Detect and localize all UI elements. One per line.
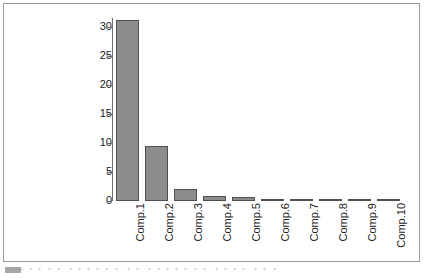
bar-Comp.7 (290, 199, 313, 201)
plot-area: 051015202530 Comp.1Comp.2Comp.3Comp.4Com… (4, 4, 421, 263)
x-label-Comp.1: Comp.1 (134, 203, 147, 261)
bar-Comp.3 (174, 189, 197, 201)
bar-Comp.6 (261, 199, 284, 201)
x-label-Comp.10: Comp.10 (395, 203, 408, 261)
x-label-Comp.7: Comp.7 (308, 203, 321, 261)
x-label-Comp.6: Comp.6 (279, 203, 292, 261)
x-label-Comp.2: Comp.2 (163, 203, 176, 261)
x-axis-tick-labels: Comp.1Comp.2Comp.3Comp.4Comp.5Comp.6Comp… (113, 203, 403, 261)
x-label-Comp.8: Comp.8 (337, 203, 350, 261)
bar-Comp.2 (145, 146, 168, 201)
x-label-Comp.5: Comp.5 (250, 203, 263, 261)
x-label-Comp.9: Comp.9 (366, 203, 379, 261)
bar-Comp.4 (203, 196, 226, 201)
x-label-Comp.4: Comp.4 (221, 203, 234, 261)
y-tick-mark (107, 143, 112, 144)
y-tick-mark (107, 114, 112, 115)
caption-strip: —— ・・・・ ・・・・・・ ・・ ・・・・・・・ ・・・・ ・・・ (5, 266, 425, 278)
y-tick-mark (107, 201, 112, 202)
y-tick-mark (107, 172, 112, 173)
y-tick-mark (107, 56, 112, 57)
bar-Comp.5 (232, 197, 255, 201)
y-tick-mark (107, 27, 112, 28)
caption-text: —— ・・・・ ・・・・・・ ・・ ・・・・・・・ ・・・・ ・・・ (5, 266, 279, 275)
bar-Comp.8 (319, 199, 342, 201)
bar-series (113, 18, 403, 201)
bar-Comp.10 (377, 199, 400, 201)
figure-frame: 051015202530 Comp.1Comp.2Comp.3Comp.4Com… (3, 3, 420, 262)
y-tick-mark (107, 85, 112, 86)
bar-Comp.1 (116, 20, 139, 201)
bar-Comp.9 (348, 199, 371, 201)
x-label-Comp.3: Comp.3 (192, 203, 205, 261)
